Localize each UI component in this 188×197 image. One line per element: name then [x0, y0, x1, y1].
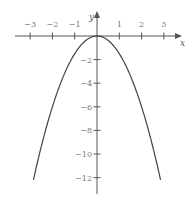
y-tick-label: −4	[80, 79, 92, 88]
y-tick-label: −2	[80, 56, 92, 65]
x-tick-label: −2	[47, 20, 59, 29]
x-axis-label: x	[180, 38, 185, 48]
y-axis-label: y	[88, 12, 95, 22]
y-tick-label: −6	[80, 103, 92, 112]
x-tick-label: −1	[69, 20, 81, 29]
x-tick-label: 2	[139, 20, 144, 29]
y-tick-label: −12	[75, 174, 92, 183]
x-tick-label: −3	[24, 20, 36, 29]
x-tick-label: 3	[161, 20, 166, 29]
parabola-chart: xy−3−2−1123−2−4−6−8−10−12	[0, 0, 188, 197]
y-tick-label: −10	[75, 150, 92, 159]
y-tick-label: −8	[80, 126, 92, 135]
y-axis-arrow-icon	[94, 11, 100, 18]
x-tick-label: 1	[117, 20, 122, 29]
